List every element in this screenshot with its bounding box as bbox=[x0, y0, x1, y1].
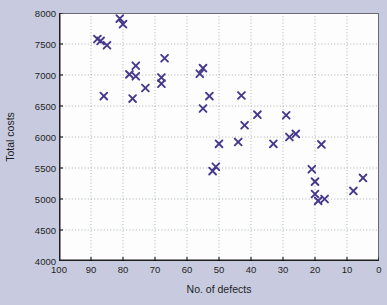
y-tick-label: 6500 bbox=[35, 101, 56, 112]
x-tick-label: 0 bbox=[376, 264, 381, 275]
y-tick-label: 7500 bbox=[35, 39, 56, 50]
y-tick-label: 4500 bbox=[35, 225, 56, 236]
x-axis-title: No. of defects bbox=[187, 283, 252, 295]
y-tick-label: 5500 bbox=[35, 163, 56, 174]
data-point-x-marker bbox=[283, 112, 290, 119]
x-tick-label: 20 bbox=[310, 264, 321, 275]
y-axis-title: Total costs bbox=[4, 112, 16, 162]
data-point-x-marker bbox=[129, 95, 136, 102]
data-point-x-marker bbox=[161, 55, 168, 62]
data-point-x-marker bbox=[104, 42, 111, 49]
data-point-x-marker bbox=[254, 111, 261, 118]
x-tick-label: 30 bbox=[278, 264, 289, 275]
data-point-x-marker bbox=[318, 141, 325, 148]
data-point-x-marker bbox=[132, 73, 139, 80]
x-tick-label: 40 bbox=[246, 264, 257, 275]
data-point-x-marker bbox=[312, 191, 319, 198]
data-point-x-marker bbox=[100, 93, 107, 100]
plot-canvas bbox=[59, 13, 379, 261]
y-tick-label: 5000 bbox=[35, 194, 56, 205]
data-point-x-marker bbox=[308, 166, 315, 173]
data-point-x-marker bbox=[350, 188, 357, 195]
x-tick-label: 90 bbox=[86, 264, 97, 275]
data-point-x-marker bbox=[158, 80, 165, 87]
plot-area bbox=[59, 13, 379, 261]
x-tick-label: 80 bbox=[118, 264, 129, 275]
x-tick-label: 70 bbox=[150, 264, 161, 275]
data-point-x-marker bbox=[360, 175, 367, 182]
data-point-x-marker bbox=[238, 92, 245, 99]
data-point-x-marker bbox=[132, 62, 139, 69]
x-tick-label: 60 bbox=[182, 264, 193, 275]
data-point-x-marker bbox=[241, 122, 248, 129]
y-tick-label: 4000 bbox=[35, 256, 56, 267]
data-point-x-marker bbox=[142, 85, 149, 92]
data-point-x-marker bbox=[235, 139, 242, 146]
data-point-x-marker bbox=[315, 197, 322, 204]
data-point-x-marker bbox=[206, 93, 213, 100]
y-tick-label: 6000 bbox=[35, 132, 56, 143]
y-tick-label: 7000 bbox=[35, 70, 56, 81]
x-tick-label: 50 bbox=[214, 264, 225, 275]
data-point-x-marker bbox=[126, 71, 133, 78]
data-point-x-marker bbox=[312, 178, 319, 185]
x-tick-label: 10 bbox=[342, 264, 353, 275]
data-point-x-marker bbox=[270, 140, 277, 147]
data-point-x-marker bbox=[158, 74, 165, 81]
y-tick-label: 8000 bbox=[35, 8, 56, 19]
scatter-chart-figure: 1009080706050403020100 40004500500055006… bbox=[0, 0, 387, 305]
